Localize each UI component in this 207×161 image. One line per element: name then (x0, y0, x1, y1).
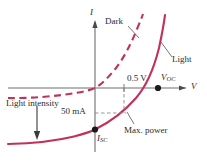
light-intensity-label: Light intensity (6, 99, 59, 108)
voltage-mark-label: 0.5 V (127, 74, 147, 83)
light-curve-label: Light (172, 55, 192, 64)
current-mark-label: 50 mA (61, 107, 86, 116)
x-axis-arrowhead (179, 85, 186, 90)
light-intensity-arrow (34, 106, 40, 140)
voc-label: VOC (161, 73, 176, 83)
y-axis-arrowhead (92, 20, 97, 28)
voc-point-marker (155, 85, 161, 91)
x-axis-label: V (191, 82, 197, 91)
y-axis-label: I (90, 8, 93, 17)
isc-label: ISC (97, 134, 108, 144)
max-power-label: Max. power (124, 126, 168, 135)
dark-curve (8, 14, 143, 98)
isc-subscript: SC (100, 136, 108, 143)
light-leader-line (161, 42, 172, 57)
max-power-guides (95, 88, 126, 113)
voc-subscript: OC (167, 75, 176, 82)
isc-point-marker (92, 126, 98, 132)
max-power-leader-line (127, 112, 134, 124)
dark-curve-label: Dark (105, 17, 123, 26)
solar-cell-iv-figure: I V Dark Light Light intensity 0.5 V 50 … (0, 0, 207, 161)
